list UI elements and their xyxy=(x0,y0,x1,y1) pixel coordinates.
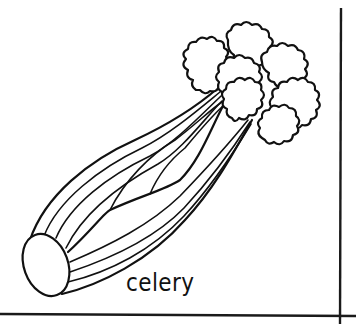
bottom-border-line xyxy=(0,314,356,316)
celery-label: celery xyxy=(126,268,194,298)
leaf-cluster-7 xyxy=(258,105,299,145)
celery-illustration-canvas: celery xyxy=(0,0,356,324)
right-border-line xyxy=(340,8,341,324)
leaf-cluster-6 xyxy=(222,78,264,121)
